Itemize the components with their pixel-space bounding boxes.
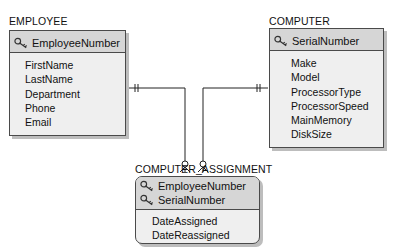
employee-assignment-line bbox=[126, 88, 185, 161]
computer-entity[interactable]: SerialNumber Make Model ProcessorType Pr… bbox=[269, 28, 384, 148]
attribute: Department bbox=[25, 87, 125, 101]
attribute: ProcessorSpeed bbox=[291, 99, 383, 113]
computer-assignment-key-section: EmployeeNumber SerialNumber bbox=[136, 177, 259, 210]
computer-key-row: SerialNumber bbox=[274, 32, 377, 50]
key-icon bbox=[140, 194, 155, 206]
key-icon bbox=[140, 180, 155, 192]
attribute: FirstName bbox=[25, 58, 125, 72]
computer-assignment-attributes: DateAssigned DateReassigned bbox=[136, 210, 259, 247]
key-attribute: EmployeeNumber bbox=[32, 37, 120, 49]
computer-attributes: Make Model ProcessorType ProcessorSpeed … bbox=[270, 51, 383, 146]
attribute: Make bbox=[291, 56, 383, 70]
attribute: MainMemory bbox=[291, 113, 383, 127]
attribute: Model bbox=[291, 70, 383, 84]
attribute: ProcessorType bbox=[291, 85, 383, 99]
key-attribute: EmployeeNumber bbox=[158, 180, 246, 192]
computer-assignment-line bbox=[203, 88, 268, 161]
computer-assignment-entity[interactable]: EmployeeNumber SerialNumber DateAssigned… bbox=[135, 176, 260, 244]
employee-entity-title: EMPLOYEE bbox=[9, 15, 68, 27]
attribute: DateReassigned bbox=[152, 228, 259, 242]
computer-assignment-key-row: EmployeeNumber bbox=[140, 179, 253, 193]
employee-entity[interactable]: EmployeeNumber FirstName LastName Depart… bbox=[9, 30, 126, 136]
key-icon bbox=[14, 37, 29, 49]
employee-key-row: EmployeeNumber bbox=[14, 34, 119, 52]
key-attribute: SerialNumber bbox=[292, 35, 359, 47]
computer-assignment-key-row: SerialNumber bbox=[140, 193, 253, 207]
attribute: Phone bbox=[25, 101, 125, 115]
key-icon bbox=[274, 35, 289, 47]
computer-key-section: SerialNumber bbox=[270, 29, 383, 51]
attribute: LastName bbox=[25, 72, 125, 86]
attribute: DiskSize bbox=[291, 127, 383, 141]
computer-assignment-entity-title: COMPUTER_ASSIGNMENT bbox=[135, 163, 272, 175]
attribute: DateAssigned bbox=[152, 214, 259, 228]
employee-key-section: EmployeeNumber bbox=[10, 31, 125, 53]
key-attribute: SerialNumber bbox=[158, 194, 225, 206]
attribute: Email bbox=[25, 115, 125, 129]
computer-entity-title: COMPUTER bbox=[269, 15, 330, 27]
employee-attributes: FirstName LastName Department Phone Emai… bbox=[10, 53, 125, 133]
